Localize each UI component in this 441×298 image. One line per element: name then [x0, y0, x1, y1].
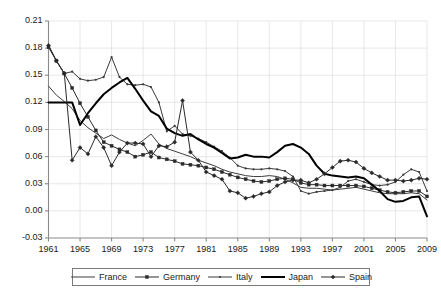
- data-point-marker: [418, 189, 421, 192]
- data-point-marker: [276, 178, 279, 181]
- data-point-marker: [103, 76, 105, 78]
- data-point-marker: [402, 190, 405, 193]
- data-point-marker: [252, 180, 255, 183]
- data-point-marker: [316, 191, 318, 193]
- x-axis-tick-label: 1985: [222, 244, 254, 254]
- data-point-marker: [173, 160, 176, 163]
- data-point-marker: [181, 162, 184, 165]
- data-point-marker: [378, 174, 382, 178]
- data-point-marker: [417, 176, 421, 180]
- y-axis-tick-label: 0.06: [25, 151, 43, 161]
- data-point-marker: [236, 176, 239, 179]
- data-point-marker: [300, 190, 302, 192]
- data-point-marker: [331, 184, 334, 187]
- data-point-marker: [126, 83, 128, 85]
- y-axis-tick-label: 0.03: [25, 178, 43, 188]
- data-point-marker: [426, 195, 429, 198]
- x-axis-tick-label: 1961: [33, 244, 65, 254]
- legend-swatch-germany-icon: [134, 272, 160, 282]
- data-point-marker: [95, 79, 97, 81]
- data-point-marker: [244, 178, 247, 181]
- legend-item-japan[interactable]: Japan: [260, 272, 314, 282]
- data-point-marker: [134, 155, 137, 158]
- data-point-marker: [142, 83, 144, 85]
- data-point-marker: [410, 168, 412, 170]
- data-point-marker: [386, 184, 388, 186]
- data-point-marker: [110, 144, 113, 147]
- data-point-marker: [370, 187, 373, 190]
- data-point-marker: [268, 180, 271, 183]
- legend-label: France: [99, 272, 127, 282]
- data-point-marker: [260, 168, 262, 170]
- legend-item-france[interactable]: France: [70, 272, 127, 282]
- data-point-marker: [339, 186, 341, 188]
- x-axis-tick-label: 1977: [159, 244, 191, 254]
- data-point-marker: [346, 158, 350, 162]
- data-point-marker: [228, 173, 231, 176]
- data-point-marker: [347, 180, 349, 182]
- data-point-marker: [166, 130, 168, 132]
- data-point-marker: [245, 167, 247, 169]
- data-point-marker: [145, 276, 148, 279]
- data-point-marker: [276, 168, 278, 170]
- y-axis-tick-label: 0.09: [25, 124, 43, 134]
- data-point-marker: [363, 181, 365, 183]
- y-axis-tick-label: 0.15: [25, 69, 43, 79]
- data-point-marker: [157, 156, 160, 159]
- data-point-marker: [110, 56, 112, 58]
- legend-swatch-france-icon: [70, 272, 96, 282]
- data-point-marker: [331, 275, 335, 279]
- legend-item-germany[interactable]: Germany: [134, 272, 200, 282]
- y-axis-tick-label: 0.21: [25, 15, 43, 25]
- data-point-marker: [180, 98, 184, 102]
- data-point-marker: [386, 190, 389, 193]
- data-point-marker: [237, 165, 239, 167]
- data-point-marker: [126, 151, 129, 154]
- data-point-marker: [79, 102, 82, 105]
- data-point-marker: [142, 153, 145, 156]
- x-axis-tick-label: 2001: [348, 244, 380, 254]
- data-point-marker: [410, 189, 413, 192]
- x-axis-tick-label: 1993: [285, 244, 317, 254]
- y-axis-tick-label: 0.00: [25, 205, 43, 215]
- data-point-marker: [102, 141, 105, 144]
- data-point-marker: [150, 86, 152, 88]
- data-point-marker: [379, 184, 381, 186]
- data-point-marker: [219, 276, 221, 278]
- data-point-marker: [150, 151, 153, 154]
- data-point-marker: [134, 84, 136, 86]
- data-point-marker: [71, 86, 74, 89]
- y-axis-tick-label: -0.03: [22, 232, 43, 242]
- data-point-marker: [355, 184, 358, 187]
- data-point-marker: [385, 178, 389, 182]
- data-point-marker: [158, 101, 160, 103]
- chart-container: -0.030.000.030.060.090.120.150.180.21196…: [0, 0, 441, 298]
- legend-item-spain[interactable]: Spain: [320, 272, 372, 282]
- data-point-marker: [426, 190, 428, 192]
- data-point-marker: [323, 184, 326, 187]
- data-point-marker: [284, 170, 286, 172]
- axes: [45, 21, 427, 242]
- data-point-marker: [283, 180, 287, 184]
- data-point-marker: [189, 163, 192, 166]
- legend-item-italy[interactable]: Italy: [207, 272, 253, 282]
- legend-label: Spain: [349, 272, 372, 282]
- y-axis-tick-label: 0.12: [25, 96, 43, 106]
- legend-label: Germany: [163, 272, 200, 282]
- legend-swatch-italy-icon: [207, 272, 233, 282]
- data-point-marker: [118, 76, 120, 78]
- x-axis-tick-label: 1969: [96, 244, 128, 254]
- data-point-marker: [251, 194, 255, 198]
- data-point-marker: [260, 180, 263, 183]
- x-axis-tick-label: 2009: [411, 244, 441, 254]
- data-point-marker: [212, 174, 216, 178]
- legend-swatch-japan-icon: [260, 272, 286, 282]
- legend-label: Japan: [289, 272, 314, 282]
- data-point-marker: [401, 179, 405, 183]
- grid-lines: [49, 21, 428, 238]
- legend-swatch-spain-icon: [320, 272, 346, 282]
- data-point-marker: [292, 175, 294, 177]
- data-point-marker: [323, 190, 325, 192]
- data-point-marker: [268, 167, 270, 169]
- data-point-marker: [393, 178, 397, 182]
